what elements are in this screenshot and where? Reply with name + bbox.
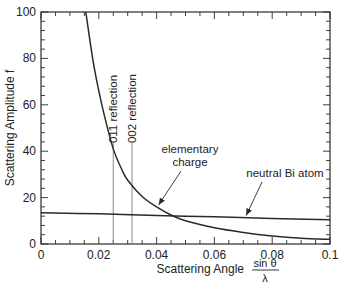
y-axis-label: Scattering Amplitude f bbox=[3, 69, 17, 186]
x-tick-label: 0 bbox=[38, 248, 45, 262]
annotation-arrow-elementary bbox=[159, 171, 181, 205]
reflection-002-label: 002 reflection bbox=[126, 74, 138, 143]
annotation-arrow-neutral-bi bbox=[246, 182, 262, 216]
plot-frame bbox=[41, 12, 330, 244]
data-series bbox=[41, 12, 330, 239]
x-tick-label: 0.1 bbox=[322, 248, 339, 262]
x-tick-label: 0.04 bbox=[145, 248, 169, 262]
reflection-markers: 011 reflection002 reflection bbox=[107, 74, 138, 244]
axis-tick-labels: 00.020.040.060.080.1020406080100 bbox=[16, 5, 339, 262]
y-tick-label: 100 bbox=[16, 5, 36, 19]
annotation-elementary-line1: elementary bbox=[162, 143, 219, 155]
y-tick-label: 0 bbox=[29, 237, 36, 251]
axis-ticks bbox=[41, 12, 330, 244]
x-axis-fraction-denominator: λ bbox=[262, 272, 268, 284]
y-tick-label: 60 bbox=[23, 98, 37, 112]
annotations: elementary charge neutral Bi atom bbox=[159, 143, 324, 216]
scattering-amplitude-chart: 00.020.040.060.080.1020406080100 011 ref… bbox=[0, 0, 342, 289]
y-tick-label: 80 bbox=[23, 51, 37, 65]
x-axis-fraction-numerator: sin θ bbox=[253, 257, 276, 269]
x-axis-label: Scattering Angle bbox=[157, 262, 245, 276]
y-tick-label: 20 bbox=[23, 191, 37, 205]
x-tick-label: 0.06 bbox=[203, 248, 227, 262]
annotation-elementary-line2: charge bbox=[172, 156, 207, 168]
y-tick-label: 40 bbox=[23, 144, 37, 158]
plot-border bbox=[41, 12, 330, 244]
x-tick-label: 0.02 bbox=[87, 248, 111, 262]
annotation-neutral-bi: neutral Bi atom bbox=[246, 167, 323, 179]
series-neutral-bi-atom bbox=[41, 213, 330, 220]
series-elementary-charge bbox=[86, 12, 330, 239]
